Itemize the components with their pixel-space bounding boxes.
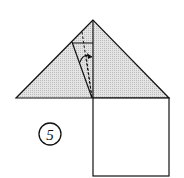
origami-diagram: 5 (0, 0, 184, 178)
step-number: 5 (46, 127, 54, 143)
square-flap (93, 98, 169, 176)
